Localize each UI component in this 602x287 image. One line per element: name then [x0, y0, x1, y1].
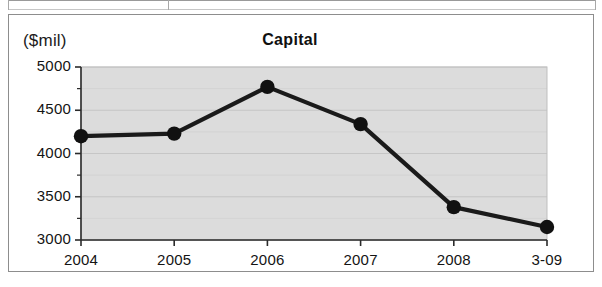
y-tick-label-4500: 4500 — [19, 100, 71, 117]
table-fragment-bottom-rule — [8, 9, 596, 10]
plot-area: 30003500400045005000 2004200520062007200… — [9, 15, 595, 273]
data-point-2004 — [74, 129, 88, 143]
y-tick-label-5000: 5000 — [19, 57, 71, 74]
y-tick-label-3000: 3000 — [19, 230, 71, 247]
data-point-2008 — [447, 200, 461, 214]
x-tick-label-2005: 2005 — [134, 251, 214, 268]
y-tick-label-3500: 3500 — [19, 187, 71, 204]
data-point-3-09 — [540, 220, 554, 234]
chart-container: ($mil) Capital 30003500400045005000 2004… — [8, 14, 594, 272]
table-fragment-right-border — [595, 0, 596, 10]
y-tick-label-4000: 4000 — [19, 144, 71, 161]
scanned-table-fragment — [0, 0, 602, 11]
x-tick-label-2004: 2004 — [41, 251, 121, 268]
x-tick-label-2007: 2007 — [321, 251, 401, 268]
table-fragment-top-rule — [8, 0, 596, 1]
table-fragment-left-border — [8, 0, 9, 10]
x-tick-label-2006: 2006 — [227, 251, 307, 268]
table-fragment-column-divider — [168, 0, 169, 10]
x-tick-label-3-09: 3-09 — [507, 251, 587, 268]
line-chart-svg — [9, 15, 595, 273]
data-point-2007 — [353, 117, 367, 131]
data-point-2005 — [167, 126, 181, 140]
data-point-2006 — [260, 80, 274, 94]
x-tick-label-2008: 2008 — [414, 251, 494, 268]
